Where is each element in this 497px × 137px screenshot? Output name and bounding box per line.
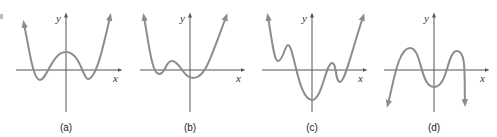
y-axis-label: y [55,12,61,24]
y-axis-label: y [179,12,185,24]
panel-label-c: (c) [306,122,318,133]
x-axis-label: x [357,72,363,84]
panel-label-d: (d) [428,122,440,133]
graph-b: x y (b) [140,12,243,133]
polynomial-graphs-figure: x y (a) x y (b) x y (c) x y (d) [0,0,497,137]
curve-d [388,48,465,104]
x-axis-label: x [235,72,241,84]
y-axis-label: y [301,12,307,24]
curve-a [24,17,110,80]
edge-mark [0,14,3,19]
graph-a: x y (a) [16,12,120,133]
y-axis-label: y [423,12,429,24]
x-axis-label: x [479,72,485,84]
panel-label-a: (a) [60,122,72,133]
curve-c [268,17,363,100]
panel-label-b: (b) [184,122,196,133]
curve-b [144,17,226,78]
graph-d: x y (d) [384,12,487,133]
x-axis-label: x [112,72,118,84]
graph-c: x y (c) [262,12,365,133]
